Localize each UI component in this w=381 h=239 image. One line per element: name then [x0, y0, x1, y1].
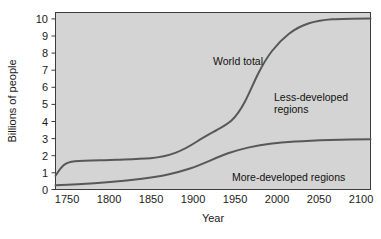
y-tick-label: 0	[42, 184, 48, 196]
y-axis-title: Billions of people	[6, 59, 18, 142]
y-tick-label: 4	[42, 116, 48, 128]
x-tick-label: 2050	[307, 193, 331, 205]
population-growth-chart: 0 1 2 3 4 5 6 7 8 9 10 1750 1800 1850 19…	[0, 0, 381, 239]
x-tick-label: 2100	[349, 193, 373, 205]
y-axis-ticks	[52, 19, 56, 190]
y-tick-label: 5	[42, 98, 48, 110]
annotation-more-developed: More-developed regions	[232, 171, 345, 183]
y-tick-label: 7	[42, 64, 48, 76]
x-tick-label: 1850	[139, 193, 163, 205]
annotation-world-total: World total	[213, 55, 263, 67]
x-tick-label: 1950	[223, 193, 247, 205]
y-tick-label: 2	[42, 150, 48, 162]
y-tick-label: 9	[42, 30, 48, 42]
x-axis-tick-labels: 1750 1800 1850 1900 1950 2000 2050 2100	[55, 193, 373, 205]
x-tick-label: 2000	[265, 193, 289, 205]
annotation-less-developed-line1: Less-developed	[274, 91, 348, 103]
annotation-less-developed-line2: regions	[274, 103, 308, 115]
y-tick-label: 8	[42, 47, 48, 59]
y-axis-tick-labels: 0 1 2 3 4 5 6 7 8 9 10	[36, 13, 48, 196]
x-tick-label: 1750	[55, 193, 79, 205]
x-axis-title: Year	[202, 212, 225, 224]
chart-canvas: 0 1 2 3 4 5 6 7 8 9 10 1750 1800 1850 19…	[0, 0, 381, 239]
x-tick-label: 1900	[181, 193, 205, 205]
x-tick-label: 1800	[97, 193, 121, 205]
y-tick-label: 10	[36, 13, 48, 25]
y-tick-label: 1	[42, 167, 48, 179]
y-tick-label: 6	[42, 81, 48, 93]
y-tick-label: 3	[42, 133, 48, 145]
